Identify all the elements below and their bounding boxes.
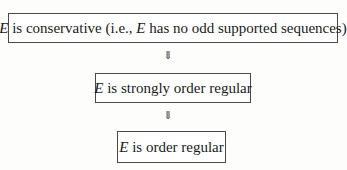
implies-arrow-icon: ⇓ [158, 110, 178, 121]
node-conservative: E is conservative (i.e., E has no odd su… [8, 13, 338, 43]
variable-e: E [136, 20, 145, 36]
node-text: is strongly order regular [103, 80, 251, 96]
node-strongly-order-regular: E is strongly order regular [95, 73, 251, 103]
variable-e: E [119, 139, 128, 155]
node-text: is conservative (i.e., [8, 20, 136, 36]
implies-arrow-icon: ⇓ [158, 50, 178, 61]
node-text: has no odd supported sequences) [146, 20, 347, 36]
node-text: is order regular [128, 139, 223, 155]
node-order-regular: E is order regular [117, 131, 226, 163]
